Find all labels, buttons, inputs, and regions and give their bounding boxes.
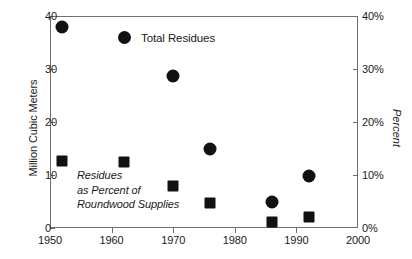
x-axis-tick-label: 1990 xyxy=(284,234,308,246)
chart-container: Million Cubic Meters 010203040 Percent 0… xyxy=(0,0,412,259)
annotation-line-3: Roundwood Supplies xyxy=(77,197,179,212)
y-axis-right-tick-label: 30% xyxy=(362,63,384,75)
y-axis-right-tick xyxy=(353,122,358,123)
x-axis-tick-label: 1960 xyxy=(100,234,124,246)
y-axis-right-tick-label: 40% xyxy=(362,10,384,22)
data-point-circle xyxy=(204,142,217,155)
y-axis-right-tick xyxy=(353,175,358,176)
x-axis-tick xyxy=(173,228,174,233)
x-axis-tick xyxy=(112,228,113,233)
data-point-square xyxy=(266,217,277,228)
data-point-square xyxy=(303,212,314,223)
legend-label-total-residues: Total Residues xyxy=(141,32,215,44)
data-point-circle xyxy=(265,195,278,208)
data-point-circle xyxy=(167,69,180,82)
x-axis-tick-label: 1970 xyxy=(161,234,185,246)
y-axis-right-title: Percent xyxy=(391,73,403,183)
legend-marker-circle-icon xyxy=(118,31,131,44)
x-axis-tick-label: 1980 xyxy=(223,234,247,246)
data-point-circle xyxy=(56,20,69,33)
x-axis-tick-label: 1950 xyxy=(38,234,62,246)
annotation-line-2: as Percent of xyxy=(77,183,179,198)
annotation-residues-percent: Residues as Percent of Roundwood Supplie… xyxy=(77,168,179,212)
data-point-square xyxy=(57,156,68,167)
data-point-square xyxy=(205,198,216,209)
y-axis-right-tick xyxy=(353,69,358,70)
annotation-line-1: Residues xyxy=(77,168,179,183)
x-axis-tick xyxy=(235,228,236,233)
y-axis-right-tick-label: 20% xyxy=(362,116,384,128)
data-point-square xyxy=(118,157,129,168)
x-axis-tick-label: 2000 xyxy=(346,234,370,246)
data-point-circle xyxy=(302,169,315,182)
legend: Total Residues xyxy=(118,31,215,44)
y-axis-right-tick-label: 0% xyxy=(362,222,378,234)
y-axis-left-title: Million Cubic Meters xyxy=(27,48,39,208)
y-axis-right-tick-label: 10% xyxy=(362,169,384,181)
x-axis-tick xyxy=(296,228,297,233)
